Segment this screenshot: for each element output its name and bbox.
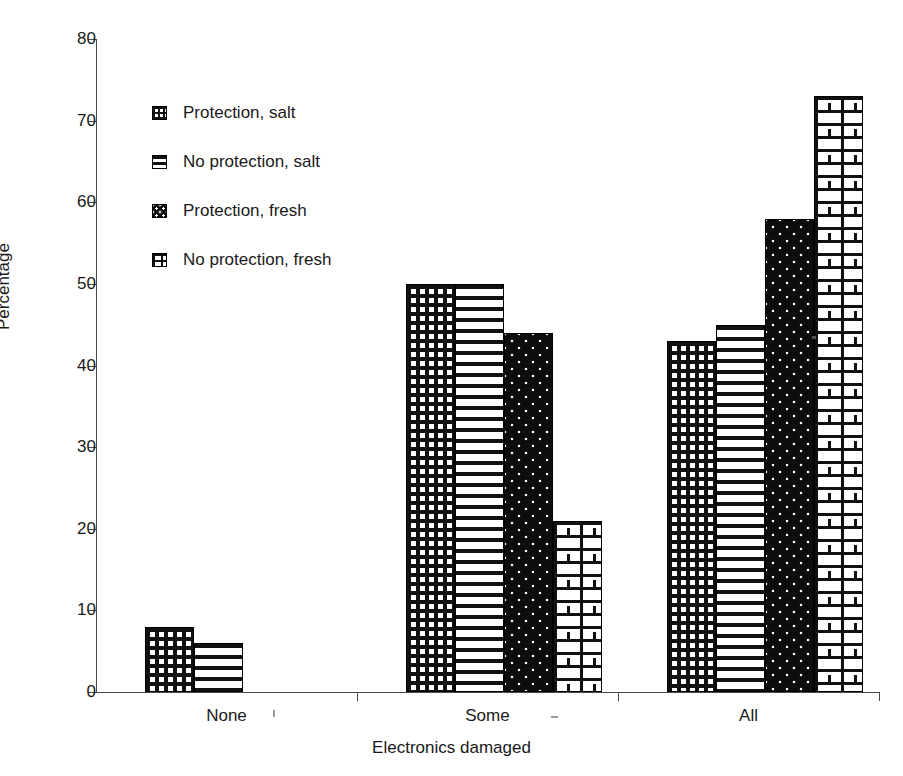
y-axis-tick-label: 10 [60,601,96,618]
y-axis-tick-label: 50 [60,275,96,292]
legend-swatch-icon [152,253,167,267]
legend-swatch-icon [152,204,167,218]
y-axis-tick-label: 30 [60,438,96,455]
bar [814,96,863,692]
bar [504,333,553,692]
brick-pattern-overlay [815,97,862,691]
legend-item-label: Protection, fresh [183,200,307,221]
legend-swatch-icon [152,155,167,169]
plot-area [96,39,879,692]
bar [716,325,765,692]
bar [667,341,716,692]
y-axis-tick-label: 20 [60,520,96,537]
y-axis-tick-label: 70 [60,112,96,129]
legend-item-label: Protection, salt [183,102,295,123]
y-axis-tick-label: 60 [60,193,96,210]
x-axis-tick [618,692,619,701]
x-axis-category-label: All [618,706,879,726]
bar-chart: 01020304050607080 NoneSomeAll Percentage… [0,0,903,776]
scan-artifact [273,710,275,717]
legend-item-label: No protection, salt [183,151,320,172]
bar [455,284,504,692]
x-axis-category-label: None [96,706,357,726]
legend-item-label: No protection, fresh [183,249,331,270]
y-axis-tick-label: 80 [60,30,96,47]
x-axis-tick [357,692,358,701]
y-axis-tick-label: 0 [60,683,96,700]
bar [553,521,602,692]
x-axis-category-label: Some [357,706,618,726]
y-axis-tick-label: 40 [60,357,96,374]
brick-pattern-overlay [554,522,601,691]
legend-swatch-icon [152,106,167,120]
x-axis-title: Electronics damaged [0,738,903,758]
bar [406,284,455,692]
x-axis-tick [879,692,880,701]
scan-artifact [551,716,558,718]
bar [194,643,243,692]
scan-artifact [812,336,816,339]
y-axis-title: Percentage [0,243,14,330]
x-axis-line [96,692,880,693]
bar [145,627,194,692]
bar [765,219,814,692]
